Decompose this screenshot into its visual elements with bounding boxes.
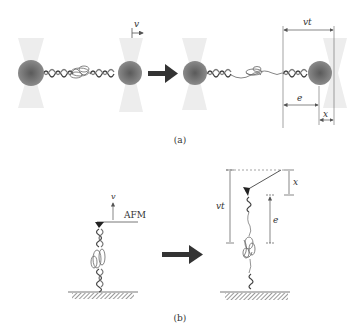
e-label-b: e: [273, 215, 278, 225]
afm-tip-right: [243, 187, 250, 196]
afm-label: AFM: [123, 210, 146, 220]
dna-handle-right-unfolded: [283, 70, 307, 78]
unfolded-protein-a: [246, 67, 282, 76]
bead-left-2: [183, 61, 207, 85]
bead-left-1: [18, 60, 44, 86]
caption-a: (a): [174, 135, 186, 145]
unfolded-protein-b: [243, 237, 255, 258]
panel-b: AFM v: [68, 170, 298, 323]
bead-right-2: [308, 61, 332, 85]
panel-a: v vt: [18, 17, 347, 145]
velocity-arrow-a: [132, 28, 143, 38]
vt-label-b: vt: [216, 201, 225, 211]
dna-handle-top-b2: [247, 197, 251, 212]
x-label-a: x: [323, 109, 328, 119]
afm-cantilever-right: [245, 170, 281, 191]
diagram-canvas: v vt: [0, 0, 359, 331]
velocity-label-b: v: [111, 192, 116, 201]
bead-right-1: [118, 61, 142, 85]
folded-protein-b: [91, 249, 105, 268]
dna-handle-left-unfolded: [207, 70, 231, 78]
dna-handle-top-b: [97, 229, 104, 247]
vt-dimension-b: [226, 170, 234, 243]
substrate-left: [72, 293, 134, 299]
dna-handle-bottom-b: [97, 269, 104, 292]
transition-arrow-b: [162, 245, 203, 264]
x-label-b: x: [293, 177, 298, 187]
substrate-right: [225, 293, 288, 300]
caption-b: (b): [174, 313, 187, 323]
e-label-a: e: [297, 93, 302, 103]
unfolded-chain-b: [248, 212, 251, 236]
unfolded-chain-b2: [249, 259, 251, 273]
dna-handle-left: [43, 70, 73, 78]
afm-tip-left: [95, 222, 104, 228]
dna-handle-right: [90, 70, 114, 78]
velocity-label-a: v: [134, 19, 139, 29]
transition-arrow-a: [148, 64, 178, 83]
dna-handle-bottom-b2: [249, 274, 253, 289]
vt-label-a: vt: [303, 17, 312, 27]
